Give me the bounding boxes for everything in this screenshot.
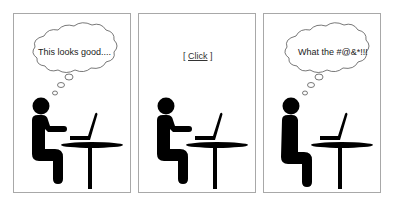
person-at-laptop-icon — [264, 14, 382, 194]
sound-effect-label: [ Click ] — [183, 51, 213, 61]
comic-panel-2: [ Click ] — [138, 13, 256, 193]
comic-panel-1: This looks good.... — [13, 13, 131, 193]
person-at-laptop-icon — [139, 14, 257, 194]
person-at-laptop-icon — [14, 14, 132, 194]
bracket-open: [ — [183, 51, 186, 61]
bracket-close: ] — [210, 51, 213, 61]
click-word: Click — [188, 51, 208, 61]
thought-text: What the #@&*!!! — [298, 47, 368, 57]
comic-panel-3: What the #@&*!!! — [263, 13, 381, 193]
thought-text: This looks good.... — [38, 47, 111, 57]
